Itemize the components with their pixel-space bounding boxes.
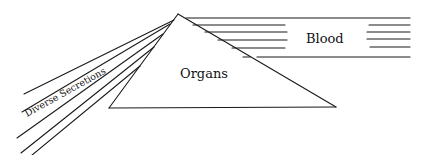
organs-label: Organs <box>180 66 228 81</box>
blood-label: Blood <box>306 31 344 46</box>
blood-channel <box>186 18 410 57</box>
organs-blood-secretions-diagram: Blood Organs Diverse Secretions <box>0 0 429 155</box>
organs-triangle <box>109 14 336 108</box>
secretions-label: Diverse Secretions <box>23 65 108 119</box>
secretion-lines <box>17 20 174 155</box>
